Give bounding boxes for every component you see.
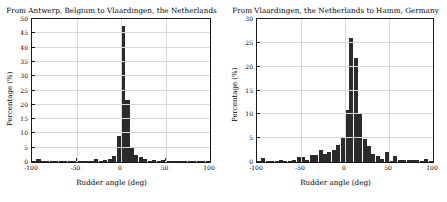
x-axis-tick-mark — [165, 158, 166, 161]
x-axis-tick-mark — [344, 158, 345, 161]
chart-title-left: From Antwerp, Belgium to Vlaardingen, th… — [0, 6, 223, 15]
gridline-horizontal — [32, 61, 210, 62]
gridline-vertical — [345, 19, 346, 162]
plot-area-left — [31, 18, 211, 163]
plot-area-right — [256, 18, 434, 163]
gridline-vertical — [166, 19, 167, 162]
x-axis-label-right: Rudder angle (deg) — [224, 178, 447, 187]
y-axis-tick-label: 45 — [20, 29, 28, 36]
gridline-horizontal — [257, 42, 433, 43]
x-axis-tick-label: -100 — [249, 164, 262, 171]
y-axis-tick-mark — [32, 147, 35, 148]
y-axis-tick-mark — [32, 32, 35, 33]
y-axis-tick-label: 5 — [24, 143, 28, 150]
gridline-horizontal — [32, 118, 210, 119]
y-axis-tick-mark — [257, 137, 260, 138]
y-axis-label-left: Percentage (%) — [6, 72, 14, 126]
gridline-horizontal — [257, 66, 433, 67]
y-axis-tick-mark — [32, 47, 35, 48]
chart-title-right: From Vlaardingen, the Netherlands to Ham… — [224, 6, 447, 15]
x-axis-tick-label: -50 — [71, 164, 81, 171]
x-axis-tick-label: -50 — [295, 164, 305, 171]
y-axis-tick-mark — [257, 42, 260, 43]
y-axis-tick-label: 30 — [20, 72, 28, 79]
x-axis-tick-label: 0 — [342, 164, 346, 171]
y-axis-tick-label: 10 — [20, 129, 28, 136]
y-axis-tick-mark — [32, 61, 35, 62]
y-axis-tick-label: 25 — [20, 86, 28, 93]
gridline-vertical — [389, 19, 390, 162]
y-axis-tick-label: 15 — [245, 86, 253, 93]
y-axis-tick-mark — [32, 90, 35, 91]
y-axis-tick-label: 30 — [245, 15, 253, 22]
y-axis-tick-label: 20 — [20, 100, 28, 107]
gridline-horizontal — [32, 132, 210, 133]
chart-panel-left: From Antwerp, Belgium to Vlaardingen, th… — [0, 0, 223, 202]
gridline-horizontal — [32, 147, 210, 148]
gridline-horizontal — [32, 90, 210, 91]
gridline-horizontal — [32, 75, 210, 76]
x-axis-tick-label: 100 — [203, 164, 214, 171]
gridline-horizontal — [257, 90, 433, 91]
y-axis-tick-mark — [257, 66, 260, 67]
y-axis-label-right: Percentage (%) — [231, 68, 239, 122]
y-axis-tick-mark — [32, 104, 35, 105]
y-axis-tick-mark — [32, 75, 35, 76]
x-axis-tick-label: 100 — [426, 164, 437, 171]
x-axis-tick-label: 50 — [161, 164, 169, 171]
x-axis-tick-mark — [120, 158, 121, 161]
chart-panel-right: From Vlaardingen, the Netherlands to Ham… — [224, 0, 447, 202]
histogram-figure: From Antwerp, Belgium to Vlaardingen, th… — [0, 0, 447, 202]
y-axis-tick-label: 50 — [20, 15, 28, 22]
y-axis-tick-mark — [257, 113, 260, 114]
y-axis-tick-label: 35 — [20, 57, 28, 64]
gridline-horizontal — [257, 113, 433, 114]
x-axis-tick-label: 50 — [384, 164, 392, 171]
y-axis-tick-mark — [32, 132, 35, 133]
x-axis-tick-mark — [388, 158, 389, 161]
x-axis-tick-mark — [300, 158, 301, 161]
y-axis-tick-label: 40 — [20, 43, 28, 50]
y-axis-tick-mark — [257, 90, 260, 91]
gridline-horizontal — [257, 137, 433, 138]
histogram-bar — [429, 161, 433, 162]
y-axis-tick-label: 20 — [245, 62, 253, 69]
gridline-horizontal — [32, 47, 210, 48]
y-axis-tick-label: 25 — [245, 38, 253, 45]
y-axis-tick-mark — [32, 118, 35, 119]
y-axis-tick-label: 10 — [245, 110, 253, 117]
histogram-bar — [206, 161, 210, 162]
y-axis-tick-label: 15 — [20, 115, 28, 122]
x-axis-label-left: Rudder angle (deg) — [0, 178, 223, 187]
gridline-vertical — [301, 19, 302, 162]
x-axis-tick-label: -100 — [24, 164, 37, 171]
gridline-horizontal — [32, 104, 210, 105]
gridline-vertical — [77, 19, 78, 162]
gridline-vertical — [121, 19, 122, 162]
y-axis-tick-label: 5 — [249, 134, 253, 141]
x-axis-tick-mark — [76, 158, 77, 161]
x-axis-tick-label: 0 — [118, 164, 122, 171]
gridline-horizontal — [32, 32, 210, 33]
